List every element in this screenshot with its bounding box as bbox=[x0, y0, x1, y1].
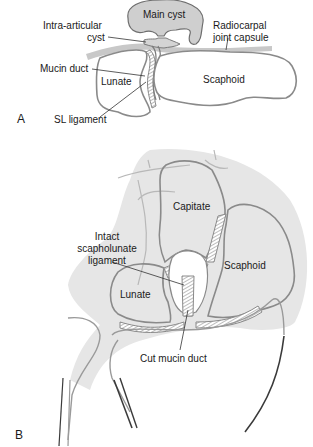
skin-line-left bbox=[59, 378, 63, 446]
label-intact-sl-line2: scapholunate bbox=[52, 243, 162, 255]
label-capitate: Capitate bbox=[173, 201, 210, 213]
label-lunate-b: Lunate bbox=[120, 289, 151, 301]
label-scaphoid-b: Scaphoid bbox=[224, 260, 266, 272]
label-lunate-a: Lunate bbox=[101, 76, 132, 88]
panel-a-illustration bbox=[86, 0, 296, 117]
label-cut-mucin-duct: Cut mucin duct bbox=[140, 353, 207, 365]
panel-label-b: B bbox=[15, 428, 23, 442]
label-intra-articular-cyst-line2: cyst bbox=[87, 32, 105, 44]
label-radiocarpal-line1: Radiocarpal bbox=[213, 20, 266, 32]
label-main-cyst: Main cyst bbox=[143, 9, 185, 21]
label-intact-sl-line1: Intact bbox=[52, 231, 162, 243]
skin-line-right bbox=[245, 336, 284, 432]
label-intact-sl-line3: ligament bbox=[52, 255, 162, 267]
label-intra-articular-cyst-line1: Intra-articular bbox=[43, 20, 102, 32]
label-mucin-duct: Mucin duct bbox=[40, 63, 88, 75]
label-scaphoid-a: Scaphoid bbox=[203, 74, 245, 86]
label-sl-ligament: SL ligament bbox=[54, 114, 106, 126]
label-radiocarpal-line2: joint capsule bbox=[213, 32, 269, 44]
panel-b-illustration bbox=[59, 149, 307, 446]
panel-label-a: A bbox=[17, 112, 25, 126]
